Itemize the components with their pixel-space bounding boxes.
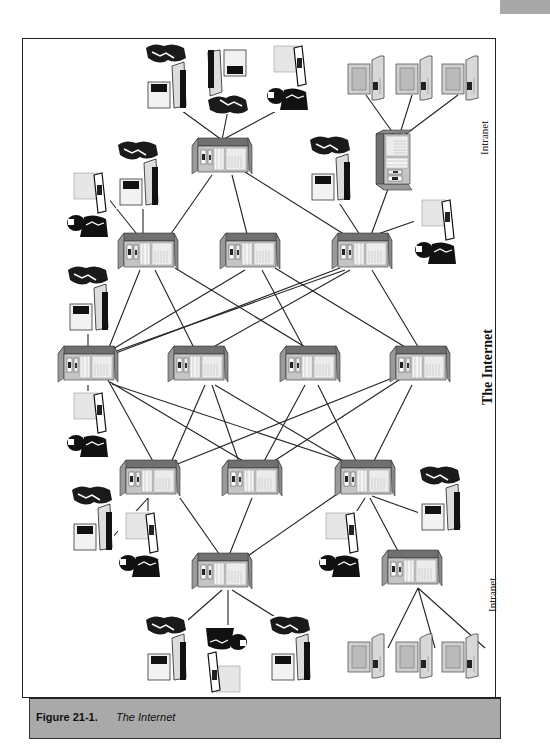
intranet-top-label: Intranet	[478, 121, 490, 155]
internet-label: The Internet	[480, 329, 495, 405]
figure-title: The Internet	[116, 711, 175, 723]
network-diagram: Intranet The Internet Intranet	[0, 0, 550, 753]
figure-number: Figure 21-1.	[36, 711, 98, 723]
figure-caption: Figure 21-1. The Internet	[29, 697, 501, 739]
intranet-bottom-label: Intranet	[486, 578, 498, 612]
